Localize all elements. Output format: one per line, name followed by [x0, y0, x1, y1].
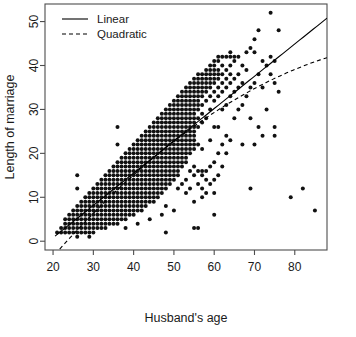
data-point	[180, 112, 184, 116]
data-point	[228, 138, 232, 142]
data-point	[156, 173, 160, 177]
data-point	[140, 204, 144, 208]
data-point	[116, 178, 120, 182]
data-point	[216, 72, 220, 76]
data-point	[188, 134, 192, 138]
data-point	[148, 178, 152, 182]
data-point	[124, 165, 128, 169]
data-point	[273, 81, 277, 85]
data-point	[220, 90, 224, 94]
data-point	[128, 169, 132, 173]
data-point	[152, 151, 156, 155]
data-point	[111, 200, 115, 204]
data-point	[99, 178, 103, 182]
data-point	[148, 169, 152, 173]
data-point	[212, 213, 216, 217]
data-point	[184, 138, 188, 142]
data-point	[232, 59, 236, 63]
data-point	[148, 134, 152, 138]
data-point	[99, 217, 103, 221]
data-point	[67, 213, 71, 217]
data-point	[228, 81, 232, 85]
data-point	[212, 99, 216, 103]
data-point	[224, 85, 228, 89]
data-point	[156, 165, 160, 169]
data-point	[160, 182, 164, 186]
data-point	[252, 81, 256, 85]
data-point	[120, 165, 124, 169]
y-tick-label: 30	[27, 102, 41, 116]
data-point	[188, 151, 192, 155]
data-point	[132, 160, 136, 164]
data-point	[152, 178, 156, 182]
data-point	[172, 147, 176, 151]
data-point	[168, 178, 172, 182]
data-point	[240, 143, 244, 147]
data-point	[128, 165, 132, 169]
data-point	[180, 138, 184, 142]
data-point	[204, 178, 208, 182]
data-point	[192, 94, 196, 98]
data-point	[184, 156, 188, 160]
data-point	[99, 213, 103, 217]
data-point	[192, 226, 196, 230]
data-point	[224, 151, 228, 155]
data-point	[116, 208, 120, 212]
data-point	[132, 165, 136, 169]
data-point	[289, 195, 293, 199]
data-point	[196, 94, 200, 98]
data-point	[124, 156, 128, 160]
data-point	[79, 200, 83, 204]
data-point	[204, 90, 208, 94]
data-point	[124, 200, 128, 204]
data-point	[269, 55, 273, 59]
x-tick-label: 40	[127, 260, 141, 274]
data-point	[91, 230, 95, 234]
data-point	[180, 156, 184, 160]
data-point	[208, 138, 212, 142]
data-point	[136, 182, 140, 186]
data-point	[172, 116, 176, 120]
data-point	[120, 213, 124, 217]
data-point	[132, 200, 136, 204]
data-point	[116, 200, 120, 204]
data-point	[184, 94, 188, 98]
data-point	[156, 143, 160, 147]
data-point	[132, 178, 136, 182]
data-point	[152, 173, 156, 177]
data-point	[144, 191, 148, 195]
data-point	[208, 182, 212, 186]
x-tick-label: 50	[167, 260, 181, 274]
data-point	[188, 99, 192, 103]
data-point	[192, 116, 196, 120]
data-point	[79, 222, 83, 226]
data-point	[168, 134, 172, 138]
data-point	[124, 187, 128, 191]
data-point	[164, 178, 168, 182]
data-point	[140, 178, 144, 182]
y-tick-label: 20	[27, 146, 41, 160]
data-point	[208, 64, 212, 68]
data-point	[164, 230, 168, 234]
data-point	[79, 204, 83, 208]
data-point	[87, 226, 91, 230]
data-point	[273, 134, 277, 138]
data-point	[140, 160, 144, 164]
data-point	[136, 138, 140, 142]
data-point	[103, 217, 107, 221]
data-point	[152, 165, 156, 169]
data-point	[132, 156, 136, 160]
data-point	[224, 134, 228, 138]
data-point	[216, 151, 220, 155]
data-point	[192, 107, 196, 111]
data-point	[184, 143, 188, 147]
data-point	[192, 147, 196, 151]
data-point	[99, 182, 103, 186]
data-point	[168, 182, 172, 186]
x-tick-label: 80	[288, 260, 302, 274]
data-point	[188, 103, 192, 107]
data-point	[176, 121, 180, 125]
data-point	[196, 125, 200, 129]
data-point	[103, 222, 107, 226]
data-point	[128, 195, 132, 199]
